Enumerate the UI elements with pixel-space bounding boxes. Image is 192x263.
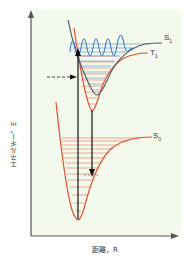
y-axis-label: エネルギー，E [4, 100, 24, 190]
state-label-s1: S1 [164, 33, 172, 44]
state-label-s0: S0 [153, 131, 161, 142]
state-label-t1: T1 [150, 48, 158, 59]
x-axis-label: 距離，R [80, 244, 130, 254]
